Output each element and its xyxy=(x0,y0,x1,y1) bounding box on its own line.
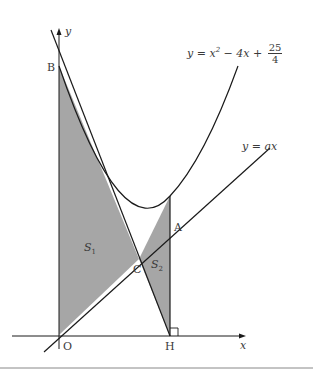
region-label-s2-main: S xyxy=(151,258,159,271)
parabola-equation: y = x2 − 4x + 254 xyxy=(187,42,282,65)
region-label-s1-sub: 1 xyxy=(92,248,96,256)
y-axis-arrow-icon xyxy=(57,28,62,35)
parabola-eq-mid: − 4x + xyxy=(220,47,266,60)
point-label-c: C xyxy=(133,264,141,275)
region-label-s1: S1 xyxy=(84,242,96,256)
fraction-numerator: 25 xyxy=(268,42,283,54)
point-label-o: O xyxy=(63,341,72,352)
region-s1 xyxy=(59,66,139,335)
region-label-s2-sub: 2 xyxy=(159,265,163,273)
point-label-a: A xyxy=(174,222,182,233)
line-equation: y = ax xyxy=(242,140,277,153)
parabola-eq-prefix: y = x xyxy=(187,47,216,60)
y-axis-label: y xyxy=(65,26,71,37)
parabola-eq-fraction: 254 xyxy=(268,42,283,65)
point-label-b: B xyxy=(47,62,55,73)
x-axis-arrow-icon xyxy=(239,334,246,339)
region-label-s1-main: S xyxy=(84,241,92,254)
x-axis-label: x xyxy=(240,340,246,351)
region-label-s2: S2 xyxy=(151,259,163,273)
right-angle-icon xyxy=(170,328,178,336)
fraction-denominator: 4 xyxy=(268,54,283,65)
point-label-h: H xyxy=(165,341,175,352)
